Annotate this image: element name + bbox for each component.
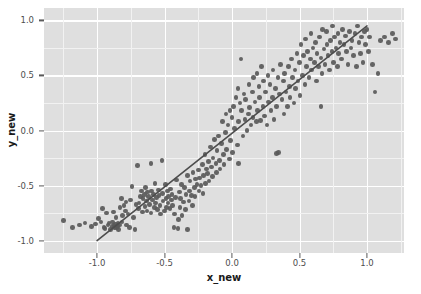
scatter-point	[344, 49, 349, 54]
scatter-point	[168, 187, 173, 192]
scatter-point	[207, 179, 212, 184]
y-tick-label: 1.0	[0, 15, 34, 25]
scatter-point	[340, 27, 345, 32]
scatter-point	[255, 71, 260, 76]
scatter-point	[218, 167, 223, 172]
scatter-point	[245, 128, 250, 133]
scatter-point	[303, 82, 308, 87]
scatter-point	[191, 170, 196, 175]
scatter-point	[158, 203, 163, 208]
scatter-point	[326, 53, 331, 58]
scatter-point	[304, 64, 309, 69]
y-tick-mark	[39, 75, 44, 76]
scatter-point	[319, 56, 324, 61]
scatter-point	[258, 118, 263, 123]
scatter-point	[173, 195, 178, 200]
scatter-point	[232, 126, 237, 131]
scatter-point	[178, 205, 183, 210]
scatter-point	[239, 57, 244, 62]
scatter-point	[83, 221, 88, 226]
scatter-point	[277, 92, 282, 97]
scatter-point	[313, 40, 318, 45]
scatter-point	[174, 178, 179, 183]
scatter-point	[224, 147, 229, 152]
scatter-point	[149, 211, 154, 216]
y-tick-label: -1.0	[0, 236, 34, 246]
scatter-point	[351, 53, 356, 58]
scatter-point	[235, 143, 240, 148]
scatter-point	[242, 92, 247, 97]
scatter-point	[216, 134, 221, 139]
scatter-point	[274, 151, 279, 156]
scatter-point	[307, 75, 312, 80]
scatter-point	[234, 95, 239, 100]
scatter-point	[347, 29, 352, 34]
scatter-point	[314, 79, 319, 84]
scatter-point	[289, 57, 294, 62]
scatter-point	[261, 104, 266, 109]
scatter-point	[287, 84, 292, 89]
scatter-point	[119, 196, 124, 201]
y-tick-mark	[39, 130, 44, 131]
y-axis-title: y_new	[6, 95, 17, 165]
scatter-point	[241, 134, 246, 139]
scatter-point	[247, 82, 252, 87]
scatter-point	[305, 49, 310, 54]
scatter-point	[111, 210, 116, 215]
scatter-point	[153, 181, 158, 186]
scatter-point	[359, 35, 364, 40]
scatter-point	[339, 57, 344, 62]
scatter-point	[120, 213, 125, 218]
scatter-point	[210, 174, 215, 179]
scatter-point	[365, 27, 370, 32]
scatter-point	[251, 75, 256, 80]
scatter-point	[246, 112, 251, 117]
scatter-point	[274, 104, 279, 109]
scatter-point	[298, 93, 303, 98]
scatter-point	[284, 90, 289, 95]
scatter-point	[114, 215, 119, 220]
scatter-point	[278, 62, 283, 67]
scatter-point	[249, 123, 254, 128]
scatter-point	[133, 227, 138, 232]
scatter-point	[130, 184, 135, 189]
scatter-point	[209, 165, 214, 170]
scatter-point	[188, 179, 193, 184]
scatter-point	[257, 95, 262, 100]
scatter-point	[255, 108, 260, 113]
scatter-point	[355, 24, 360, 29]
scatter-point	[247, 105, 252, 110]
x-tick-mark	[299, 253, 300, 258]
scatter-point	[190, 203, 195, 208]
scatter-point	[353, 31, 358, 36]
scatter-point	[320, 71, 325, 76]
scatter-point	[272, 117, 277, 122]
scatter-point	[203, 152, 208, 157]
scatter-point	[266, 73, 271, 78]
scatter-point	[149, 161, 154, 166]
scatter-point	[223, 130, 228, 135]
scatter-point	[236, 161, 241, 166]
x-tick-mark	[164, 253, 165, 258]
scatter-point	[269, 108, 274, 113]
scatter-point	[61, 218, 66, 223]
scatter-point	[343, 34, 348, 39]
scatter-point	[170, 203, 175, 208]
x-tick-mark	[231, 253, 232, 258]
scatter-point	[253, 100, 258, 105]
x-tick-label: -1.0	[77, 258, 117, 268]
scatter-point	[265, 123, 270, 128]
scatter-point	[370, 62, 375, 67]
scatter-point	[211, 156, 216, 161]
scatter-point	[285, 104, 290, 109]
scatter-point	[217, 158, 222, 163]
scatter-point	[309, 31, 314, 36]
scatter-point	[196, 168, 201, 173]
scatter-point	[322, 47, 327, 52]
scatter-point	[327, 68, 332, 73]
scatter-point	[376, 71, 381, 76]
scatter-point	[336, 51, 341, 56]
x-tick-label: 0.0	[212, 258, 252, 268]
scatter-point	[236, 119, 241, 124]
scatter-point	[250, 90, 255, 95]
